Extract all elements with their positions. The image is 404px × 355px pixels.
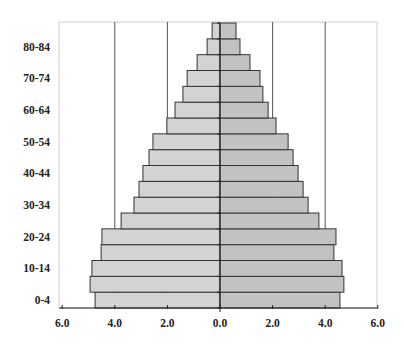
y-tick-label: 10-14 — [23, 262, 50, 274]
bar-right-5-9 — [220, 276, 344, 292]
x-tick-label: 2.0 — [160, 317, 175, 329]
bar-right-15-19 — [220, 245, 334, 261]
bar-left-55-59 — [167, 118, 220, 134]
bar-left-20-24 — [102, 229, 220, 245]
bar-right-0-4 — [220, 292, 340, 308]
bar-right-20-24 — [220, 229, 336, 245]
bar-right-60-64 — [220, 102, 268, 118]
y-tick-label: 30-34 — [23, 199, 50, 211]
bar-left-0-4 — [95, 292, 220, 308]
y-tick-label: 70-74 — [23, 72, 50, 84]
bar-right-55-59 — [220, 118, 276, 134]
bar-right-35-39 — [220, 181, 303, 197]
bar-left-35-39 — [139, 181, 220, 197]
bar-left-45-49 — [149, 150, 220, 166]
bar-left-10-14 — [92, 261, 220, 277]
bar-right-70-74 — [220, 71, 260, 87]
bar-left-70-74 — [187, 71, 220, 87]
bar-left-5-9 — [90, 276, 220, 292]
bar-right-75-79 — [220, 55, 250, 71]
bar-left-85+ — [212, 23, 220, 39]
y-axis-labels: 0-410-1420-2430-3440-4450-5460-6470-7480… — [23, 41, 50, 306]
bar-left-25-29 — [121, 213, 220, 229]
y-tick-label: 40-44 — [23, 167, 50, 179]
bar-right-40-44 — [220, 166, 298, 182]
x-tick-label: 2.0 — [265, 317, 280, 329]
y-tick-label: 0-4 — [35, 294, 51, 306]
bar-left-40-44 — [143, 166, 220, 182]
bar-left-65-69 — [183, 86, 220, 102]
x-tick-label: 6.0 — [371, 317, 386, 329]
bar-right-65-69 — [220, 86, 263, 102]
x-axis: 6.04.02.00.02.04.06.0 — [55, 305, 385, 329]
y-tick-label: 20-24 — [23, 231, 50, 243]
x-tick-label: 4.0 — [108, 317, 123, 329]
bar-right-85+ — [220, 23, 236, 39]
bar-right-45-49 — [220, 150, 293, 166]
bar-right-80-84 — [220, 39, 240, 55]
bar-left-80-84 — [207, 39, 220, 55]
bar-left-30-34 — [134, 197, 220, 213]
y-tick-label: 60-64 — [23, 104, 50, 116]
y-tick-label: 50-54 — [23, 136, 50, 148]
x-tick-label: 6.0 — [55, 317, 70, 329]
bar-left-50-54 — [153, 134, 220, 150]
bar-left-75-79 — [197, 55, 220, 71]
bar-right-30-34 — [220, 197, 308, 213]
bar-right-10-14 — [220, 261, 342, 277]
bar-right-50-54 — [220, 134, 288, 150]
population-pyramid-chart: 6.04.02.00.02.04.06.0 0-410-1420-2430-34… — [0, 0, 404, 355]
bar-left-60-64 — [175, 102, 220, 118]
x-tick-label: 4.0 — [318, 317, 333, 329]
x-tick-label: 0.0 — [213, 317, 228, 329]
y-tick-label: 80-84 — [23, 41, 50, 53]
bar-right-25-29 — [220, 213, 319, 229]
bar-left-15-19 — [101, 245, 220, 261]
